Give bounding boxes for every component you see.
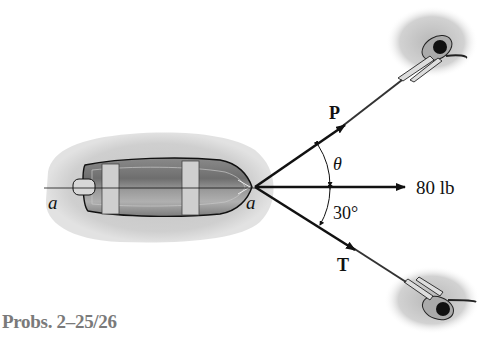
figure-caption: Probs. 2–25/26 [2, 311, 117, 333]
label-angle-30: 30° [333, 204, 358, 222]
label-resultant-80lb: 80 lb [416, 178, 455, 197]
label-angle-theta: θ [333, 155, 342, 173]
boat [73, 158, 252, 216]
diagram-canvas [0, 0, 498, 346]
angle-theta-arc [318, 145, 330, 186]
person-top-icon [386, 6, 478, 82]
angle-30-arc [320, 189, 330, 225]
label-force-t: T [337, 256, 349, 274]
label-point-a-right: a [246, 193, 256, 212]
label-point-a-left: a [48, 193, 58, 212]
rope-t [350, 246, 406, 282]
rope-p [340, 80, 402, 128]
label-force-p: P [329, 104, 340, 122]
force-p-arrow [255, 125, 345, 187]
